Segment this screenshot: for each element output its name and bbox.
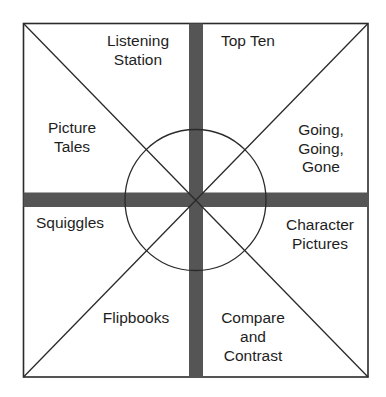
section-label-line: Contrast (224, 347, 283, 364)
activity-wheel-diagram: Listening Station Top Ten Picture Tales … (0, 0, 386, 397)
section-label-line: Character (286, 216, 354, 233)
section-label-line: Tales (54, 138, 90, 155)
section-label-line: Gone (302, 158, 340, 175)
section-label-line: Squiggles (36, 214, 104, 231)
section-top-ten: Top Ten (221, 32, 275, 49)
section-label-line: Going, (298, 121, 344, 138)
section-squiggles: Squiggles (36, 214, 104, 231)
section-label-line: Going, (298, 140, 344, 157)
section-going-going-gone: Going, Going, Gone (298, 121, 344, 175)
section-label-line: Flipbooks (103, 309, 170, 326)
section-flipbooks: Flipbooks (103, 309, 170, 326)
section-label-line: Pictures (292, 235, 348, 252)
section-label-line: Station (114, 51, 162, 68)
section-label-line: Compare (221, 309, 285, 326)
section-label-line: Listening (107, 32, 169, 49)
section-label-line: and (240, 328, 266, 345)
section-label-line: Picture (48, 119, 96, 136)
section-label-line: Top Ten (221, 32, 275, 49)
